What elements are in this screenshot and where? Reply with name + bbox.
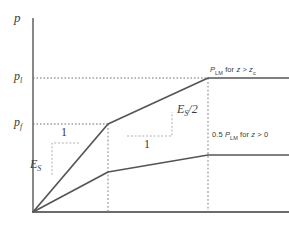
slope-label-es-half: ES/2 [177, 103, 198, 118]
annotation-upper-for: for [223, 65, 236, 74]
annotation-upper-sub: LM [215, 70, 223, 76]
diagram-canvas [0, 0, 289, 225]
slope-unit-label-es: 1 [61, 126, 67, 138]
slope-triangle-es [52, 143, 80, 175]
annotation-upper-rel: > [240, 65, 249, 74]
curve-lower [33, 155, 289, 212]
annotation-lower-for: for [238, 130, 251, 139]
y-tick-label-pl: pl [14, 70, 22, 85]
slope-suffix-es-half: /2 [188, 102, 197, 116]
annotation-upper-limit-sub: c [253, 70, 256, 76]
slope-unit-label-es-half: 1 [144, 138, 150, 150]
annotation-lower-sub: LM [230, 135, 238, 141]
slope-sub-es: S [37, 164, 41, 173]
annotation-lower-rel: > [255, 130, 264, 139]
slope-triangle-es-half [127, 112, 172, 136]
annotation-upper-plateau: PLM for z > zc [210, 66, 256, 76]
y-tick-label-pf: pf [14, 116, 22, 131]
slope-label-es: ES [30, 158, 41, 173]
annotation-lower-limit: 0 [264, 130, 268, 139]
pressure-depth-diagram: p pl pf ES 1 ES/2 1 PLM for z > zc 0.5 P… [0, 0, 289, 225]
y-tick-sub-pl: l [20, 76, 22, 85]
y-axis-label: p [14, 11, 21, 24]
annotation-lower-plateau: 0.5 PLM for z > 0 [212, 131, 268, 141]
annotation-lower-prefix: 0.5 [212, 130, 225, 139]
y-tick-sub-pf: f [20, 122, 22, 131]
